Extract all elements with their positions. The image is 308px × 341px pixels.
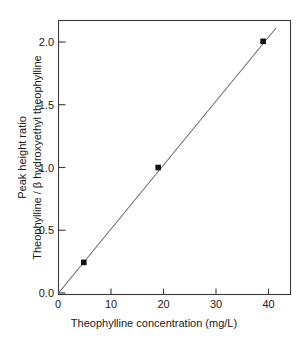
x-tick-label-30: 30 (210, 299, 222, 310)
y-axis-title-line-2: Theophylline / β hydroxyethyl theophylli… (30, 55, 44, 259)
y-axis-title: Theophylline / β hydroxyethyl theophylli… (14, 20, 44, 295)
chart-figure: 0 10 20 30 40 0.0 0.5 1.0 1.5 2.0 Theoph… (0, 0, 308, 341)
x-tick-label-20: 20 (157, 299, 169, 310)
axis-frame (59, 21, 291, 295)
x-tick-label-0: 0 (55, 299, 61, 310)
data-point-3 (260, 39, 266, 45)
data-point-2 (155, 165, 161, 171)
y-axis-ticks (59, 42, 66, 293)
x-axis-ticks (59, 289, 269, 295)
x-axis-title: Theophylline concentration (mg/L) (0, 317, 308, 329)
plot-frame-box (59, 21, 291, 295)
x-tick-label-10: 10 (105, 299, 117, 310)
calibration-fit-line (59, 28, 277, 293)
data-point-1 (81, 260, 87, 266)
x-tick-label-40: 40 (262, 299, 274, 310)
y-axis-title-lines: Theophylline / β hydroxyethyl theophylli… (14, 20, 44, 295)
y-axis-title-line-1: Peak height ratio (15, 116, 29, 199)
